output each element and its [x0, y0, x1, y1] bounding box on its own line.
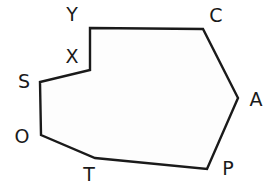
vertex-label-y: Y — [66, 5, 78, 24]
polygon-canvas — [0, 0, 277, 190]
vertex-label-p: P — [222, 159, 233, 178]
vertex-label-x: X — [65, 47, 78, 66]
vertex-label-o: O — [15, 127, 30, 146]
vertex-label-s: S — [18, 72, 30, 91]
polygon-figure: Y C A P T O S X — [0, 0, 277, 190]
vertex-label-c: C — [209, 6, 222, 25]
vertex-label-a: A — [250, 90, 263, 109]
vertex-label-t: T — [83, 165, 95, 184]
